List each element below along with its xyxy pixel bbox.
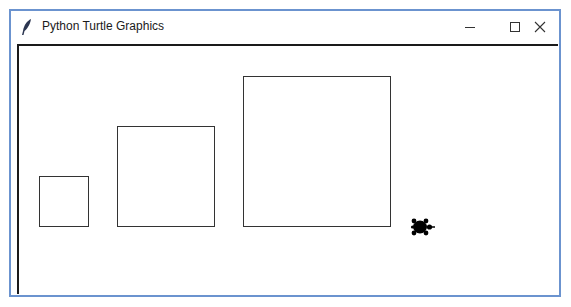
close-icon <box>534 21 546 33</box>
feather-icon <box>21 18 33 36</box>
turtle-canvas[interactable] <box>17 44 558 294</box>
large-square <box>243 76 391 227</box>
turtle-window: Python Turtle Graphics <box>9 9 561 297</box>
close-button[interactable] <box>517 11 563 43</box>
title-bar[interactable]: Python Turtle Graphics <box>11 11 559 43</box>
small-square <box>39 176 89 227</box>
window-title: Python Turtle Graphics <box>42 19 164 33</box>
medium-square <box>117 126 215 227</box>
minimize-button[interactable] <box>447 11 493 43</box>
minimize-icon <box>464 21 476 33</box>
turtle-icon <box>409 216 437 242</box>
